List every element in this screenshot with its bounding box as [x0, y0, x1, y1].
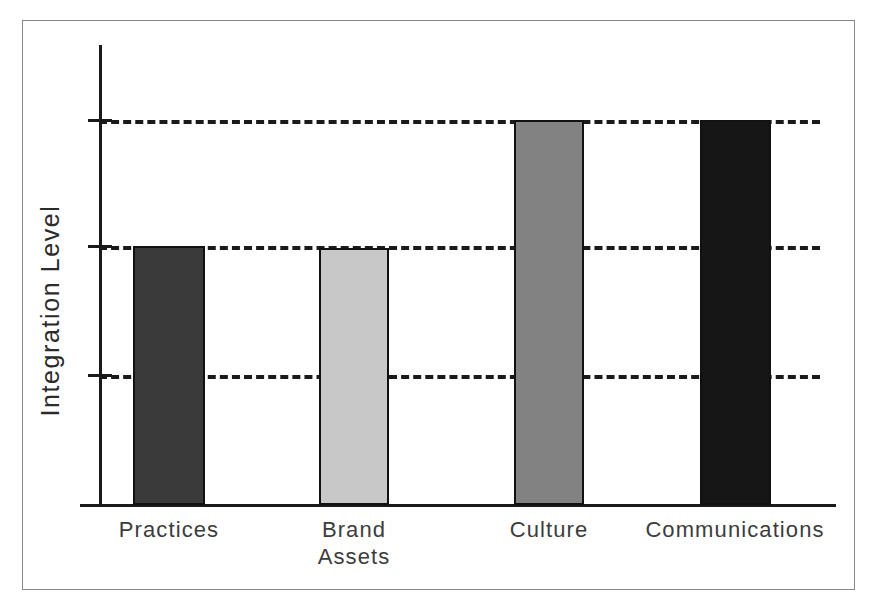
- bar-culture[interactable]: [514, 120, 584, 505]
- x-tick-label-practices: Practices: [89, 516, 249, 543]
- bar-brand-assets[interactable]: [319, 248, 389, 505]
- chart-canvas: Practices Brand Assets Culture Communica…: [0, 0, 876, 610]
- y-axis-title: Integration Level: [36, 204, 65, 416]
- x-tick-label-brand-assets: Brand Assets: [274, 516, 434, 570]
- bar-practices[interactable]: [133, 246, 205, 505]
- y-axis-title-container: Integration Level: [28, 140, 72, 480]
- plot-area: Practices Brand Assets Culture Communica…: [0, 0, 876, 610]
- x-tick-label-culture: Culture: [469, 516, 629, 543]
- x-tick-label-communications: Communications: [635, 516, 835, 543]
- bar-communications[interactable]: [700, 120, 771, 505]
